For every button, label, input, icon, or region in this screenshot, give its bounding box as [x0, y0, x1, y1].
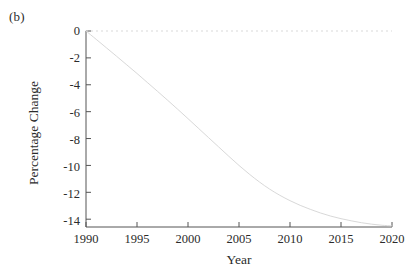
figure-panel-b: (b) Percentage Change Year 0 -2 -4 -6 -8… [0, 0, 415, 279]
plot-area [0, 0, 415, 279]
x-tick-marks [86, 222, 392, 227]
y-tick-marks [86, 31, 91, 219]
axis-lines [86, 31, 392, 227]
data-series-line [86, 31, 392, 226]
